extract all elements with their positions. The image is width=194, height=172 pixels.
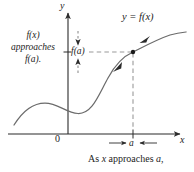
fa-value-label: f(a) (71, 46, 85, 56)
bottom-caption-suffix: , (161, 153, 164, 164)
curve-equation-label: y = f(x) (122, 11, 154, 22)
x-axis-label: x (180, 135, 184, 146)
graph-canvas (0, 0, 194, 172)
y-axis-label: y (60, 1, 64, 12)
curve-arrow-from-right (140, 36, 151, 43)
left-caption-line-2: approaches (2, 42, 64, 54)
limit-graph-figure: y x 0 y = f(x) f(a) a f(x) approaches f(… (0, 0, 194, 172)
origin-label: 0 (55, 134, 60, 145)
bottom-caption: As x approaches a, (88, 154, 164, 165)
left-caption: f(x) approaches f(a). (2, 30, 64, 66)
limit-point-dot (131, 50, 135, 54)
bottom-caption-prefix: As (88, 153, 102, 164)
left-caption-line-3: f(a). (2, 54, 64, 66)
left-caption-line-1: f(x) (2, 30, 64, 42)
a-value-label: a (129, 138, 134, 148)
bottom-caption-middle: approaches (106, 153, 156, 164)
